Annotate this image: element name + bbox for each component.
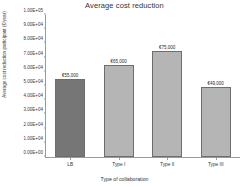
bar-value-label: €65,000 <box>111 59 127 64</box>
bar-group: €65,000Type I <box>95 15 144 157</box>
y-tick-label: 1.00E+05 <box>24 8 46 13</box>
y-tick-label: 6.00E+04 <box>24 64 46 69</box>
x-tick-mark <box>167 157 168 160</box>
y-tick-label: 2.00E+04 <box>24 121 46 126</box>
bar-group: €55,000LB <box>46 15 95 157</box>
bar[interactable]: €75,000 <box>152 51 182 158</box>
y-tick-label: 3.00E+04 <box>24 107 46 112</box>
bar-group: €49,000Type III <box>192 15 241 157</box>
y-tick-label: 1.00E+04 <box>24 135 46 140</box>
x-tick-mark <box>216 157 217 160</box>
bar[interactable]: €55,000 <box>55 79 85 157</box>
bar-group: €75,000Type II <box>143 15 192 157</box>
bar-value-label: €55,000 <box>62 73 78 78</box>
x-tick-mark <box>119 157 120 160</box>
bar[interactable]: €49,000 <box>201 87 231 157</box>
y-tick-label: 8.00E+04 <box>24 36 46 41</box>
x-axis-title: Type of collaboration <box>0 176 249 182</box>
plot-area: 0.00E+001.00E+042.00E+043.00E+044.00E+04… <box>45 15 240 158</box>
y-tick-label: 7.00E+04 <box>24 50 46 55</box>
x-tick-mark <box>70 157 71 160</box>
bar-series: €55,000LB€65,000Type I€75,000Type II€49,… <box>46 15 240 157</box>
bar[interactable]: €65,000 <box>104 65 134 157</box>
bar-value-label: €75,000 <box>159 45 175 50</box>
y-axis-title: Average cost reduction participant (€/ye… <box>2 0 7 115</box>
x-tick-label: Type I <box>112 162 125 167</box>
y-tick-label: 5.00E+04 <box>24 79 46 84</box>
bar-chart: Average cost reduction Average cost redu… <box>0 0 249 187</box>
y-tick-label: 4.00E+04 <box>24 93 46 98</box>
x-tick-label: Type III <box>208 162 224 167</box>
y-tick-label: 9.00E+04 <box>24 22 46 27</box>
x-tick-label: Type II <box>160 162 174 167</box>
y-tick-label: 0.00E+00 <box>24 150 46 155</box>
x-tick-label: LB <box>67 162 73 167</box>
bar-value-label: €49,000 <box>208 81 224 86</box>
